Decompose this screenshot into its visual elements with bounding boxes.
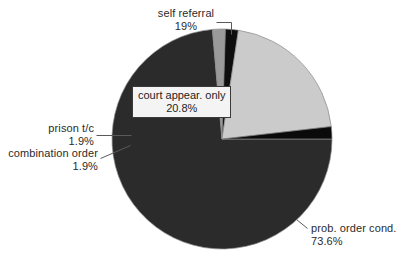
- slice-label-court-appear-value: 20.8%: [138, 102, 225, 115]
- leader-line-prob-order: [297, 220, 308, 229]
- slice-label-prison-tc-name: prison t/c: [4, 122, 94, 135]
- slice-label-prison-tc-value: 1.9%: [4, 135, 94, 148]
- slice-label-self-referral-value: 19%: [146, 20, 226, 33]
- slice-label-combination-order-name: combination order: [0, 147, 98, 160]
- pie-chart: self referral 19% court appear. only 20.…: [0, 0, 411, 262]
- pie-slice-court-appear-only: [222, 30, 331, 139]
- slice-label-prob-order-cond: prob. order cond. 73.6%: [311, 222, 409, 247]
- slice-label-court-appear-name: court appear. only: [138, 89, 225, 102]
- slice-label-self-referral-name: self referral: [146, 7, 226, 20]
- slice-label-combination-order: combination order 1.9%: [0, 147, 98, 172]
- slice-label-self-referral: self referral 19%: [146, 7, 226, 32]
- slice-label-prob-order-cond-name: prob. order cond.: [311, 222, 409, 235]
- slice-label-prob-order-cond-value: 73.6%: [311, 235, 409, 248]
- pie-slices-group: [112, 29, 332, 249]
- slice-label-prison-tc: prison t/c 1.9%: [4, 122, 94, 147]
- slice-label-court-appear-box: court appear. only 20.8%: [132, 86, 231, 118]
- slice-label-combination-order-value: 1.9%: [0, 160, 98, 173]
